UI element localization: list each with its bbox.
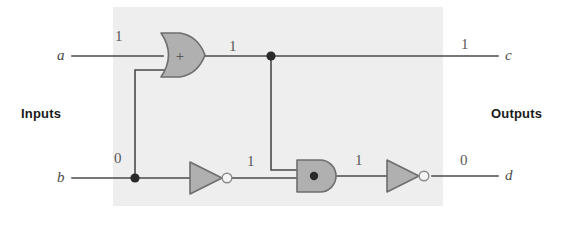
input-label-b: b xyxy=(57,169,65,186)
circuit-canvas: + xyxy=(0,0,567,232)
signal-value-a: 1 xyxy=(115,28,123,45)
outputs-section-label: Outputs xyxy=(491,106,542,121)
output-label-d: d xyxy=(505,167,513,184)
signal-value-or-output: 1 xyxy=(229,38,237,55)
signal-value-not1-output: 1 xyxy=(247,153,255,170)
signal-value-c: 1 xyxy=(461,36,469,53)
and-gate-symbol xyxy=(310,172,318,180)
inputs-section-label: Inputs xyxy=(21,106,61,121)
junction-dot-b xyxy=(130,173,139,182)
circuit-diagram: + a b c d 1 0 1 1 1 1 0 Inputs Outputs xyxy=(0,0,567,232)
signal-value-b: 0 xyxy=(114,150,122,167)
junction-dot-or-output xyxy=(266,51,275,60)
not-gate-1-bubble-icon xyxy=(222,173,232,183)
or-gate-symbol: + xyxy=(176,48,184,64)
signal-value-d: 0 xyxy=(460,152,468,169)
signal-value-and-output: 1 xyxy=(355,152,363,169)
input-label-a: a xyxy=(57,47,65,64)
output-label-c: c xyxy=(505,47,512,64)
not-gate-2-bubble-icon xyxy=(419,171,429,181)
